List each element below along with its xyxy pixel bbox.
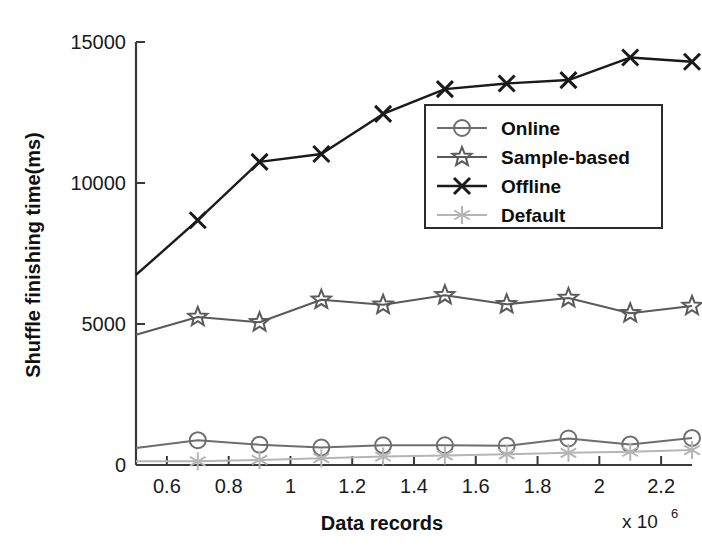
x-tick-label: 2.2: [647, 475, 675, 497]
x-tick-label: 1.6: [462, 475, 490, 497]
x-tick-label: 1: [285, 475, 296, 497]
legend-label: Online: [501, 118, 560, 139]
y-axis-ticks: [136, 42, 145, 465]
x-tick-label: 0.8: [215, 475, 243, 497]
x-marker: [375, 106, 391, 122]
y-tick-label: 5000: [82, 313, 127, 335]
y-tick-label: 0: [115, 454, 126, 476]
series-line: [136, 295, 692, 334]
x-tick-label: 2: [594, 475, 605, 497]
y-tick-label: 15000: [70, 31, 126, 53]
x-axis-tick-labels: 0.60.811.21.41.61.822.2: [153, 475, 675, 497]
legend-label: Default: [501, 205, 566, 226]
legend-label: Offline: [501, 176, 561, 197]
chart-legend[interactable]: OnlineSample-basedOfflineDefault: [425, 105, 662, 228]
x-axis-multiplier: x 10: [622, 511, 658, 532]
x-tick-label: 1.2: [338, 475, 366, 497]
x-tick-label: 1.8: [524, 475, 552, 497]
x-marker: [190, 212, 206, 228]
chart-canvas: 050001000015000 0.60.811.21.41.61.822.2 …: [0, 0, 702, 554]
series-line: [136, 438, 692, 448]
x-axis-title: Data records: [321, 512, 443, 534]
y-axis-title: Shuffle finishing time(ms): [22, 132, 44, 378]
series-sample-based: [136, 285, 702, 334]
y-axis-tick-labels: 050001000015000: [70, 31, 126, 476]
x-tick-label: 0.6: [153, 475, 181, 497]
legend-label: Sample-based: [501, 147, 630, 168]
x-axis-multiplier-exponent: 6: [671, 506, 678, 521]
chart-figure: 050001000015000 0.60.811.21.41.61.822.2 …: [0, 0, 702, 554]
y-tick-label: 10000: [70, 172, 126, 194]
x-tick-label: 1.4: [400, 475, 428, 497]
star-marker: [682, 296, 701, 314]
